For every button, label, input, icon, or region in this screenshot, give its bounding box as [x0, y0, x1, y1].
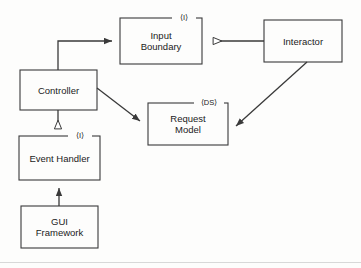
diagram-canvas: Input Boundary Interactor Controller Req…	[0, 0, 361, 268]
page-fold-line	[0, 262, 361, 263]
edge-controller-to-request-model	[97, 88, 140, 121]
node-box-gui-framework[interactable]	[21, 206, 98, 248]
node-box-controller[interactable]	[20, 70, 97, 110]
edge-interactor-to-request-model	[236, 62, 307, 126]
stereotype-gap-request-model	[194, 99, 224, 108]
stereotype-gap-event-handler	[68, 132, 92, 141]
node-box-event-handler[interactable]	[19, 136, 100, 180]
node-box-input-boundary[interactable]	[120, 18, 202, 64]
node-box-interactor[interactable]	[264, 20, 342, 62]
node-box-request-model[interactable]	[148, 103, 228, 145]
edge-controller-to-input-boundary	[58, 41, 112, 70]
stereotype-gap-input-boundary	[172, 14, 196, 23]
diagram-graphics	[0, 0, 361, 268]
